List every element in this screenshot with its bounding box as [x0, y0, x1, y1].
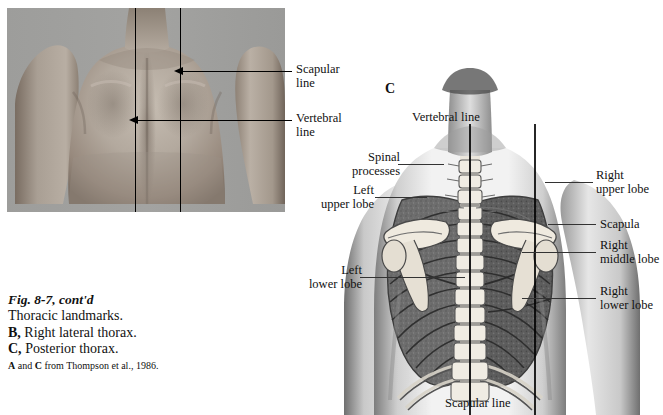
panel-c-illustration: C — [330, 60, 663, 415]
caption-panel-c-key: C, — [8, 341, 22, 356]
label-left-lower-lobe: Left lower lobe — [282, 263, 362, 291]
figure-caption: Fig. 8-7, cont'd Thoracic landmarks. B, … — [8, 292, 258, 373]
label-scapular-line: Scapular line — [445, 396, 511, 410]
panel-b-photograph — [7, 8, 285, 212]
caption-figure-number: Fig. 8-7, cont'd — [8, 292, 258, 308]
lead-left-lower-lobe — [360, 277, 465, 278]
vertebral-arrowhead-icon — [129, 116, 138, 124]
caption-panel-c-text: Posterior thorax. — [22, 341, 119, 356]
lead-right-lower-lobe — [522, 298, 596, 299]
label-right-middle-lobe-1: Right — [600, 238, 659, 252]
label-left-upper-lobe-1: Left — [294, 183, 374, 197]
caption-panel-c: C, Posterior thorax. — [8, 341, 258, 358]
label-right-lower-lobe-2: lower lobe — [600, 298, 653, 312]
label-vertebral-line: Vertebral line — [412, 110, 480, 124]
caption-source-text: from Thompson et al., 1986. — [42, 360, 158, 371]
label-right-middle-lobe-2: middle lobe — [600, 252, 659, 266]
label-spinal-processes: Spinal processes — [328, 150, 400, 178]
posterior-thorax-photo — [7, 8, 285, 212]
lead-right-upper-lobe — [545, 182, 593, 183]
caption-source: A and C from Thompson et al., 1986. — [8, 359, 258, 373]
caption-panel-b-text: Right lateral thorax. — [21, 325, 137, 340]
lead-scapula — [548, 224, 596, 225]
caption-title: Thoracic landmarks. — [8, 308, 258, 325]
label-scapula: Scapula — [600, 217, 640, 231]
scapular-arrowhead-icon — [174, 67, 183, 75]
caption-panel-b-key: B, — [8, 325, 21, 340]
lead-right-middle-lobe — [522, 252, 596, 253]
figure-8-7: Scapular line Vertebral line Fig. 8-7, c… — [0, 0, 663, 415]
caption-panel-b: B, Right lateral thorax. — [8, 325, 258, 342]
panel-c-letter: C — [385, 81, 395, 97]
label-left-upper-lobe-2: upper lobe — [294, 197, 374, 211]
label-left-lower-lobe-2: lower lobe — [282, 277, 362, 291]
caption-source-key-c: C — [35, 360, 42, 371]
scapular-leader-line — [182, 71, 292, 72]
label-left-lower-lobe-1: Left — [282, 263, 362, 277]
photo-vertebral-line — [135, 8, 136, 212]
lead-left-upper-lobe — [375, 197, 427, 198]
lead-spinal-processes — [398, 164, 444, 165]
caption-source-mid: and — [15, 360, 34, 371]
label-right-upper-lobe-2: upper lobe — [596, 182, 649, 196]
label-left-upper-lobe: Left upper lobe — [294, 183, 374, 211]
label-right-lower-lobe: Right lower lobe — [600, 284, 653, 312]
photo-scapular-line — [180, 8, 181, 212]
label-spinal-processes-1: Spinal — [328, 150, 400, 164]
label-right-lower-lobe-1: Right — [600, 284, 653, 298]
label-spinal-processes-2: processes — [328, 164, 400, 178]
label-right-middle-lobe: Right middle lobe — [600, 238, 659, 266]
vertebral-leader-line — [137, 120, 292, 121]
label-right-upper-lobe-1: Right — [596, 168, 649, 182]
label-right-upper-lobe: Right upper lobe — [596, 168, 649, 196]
